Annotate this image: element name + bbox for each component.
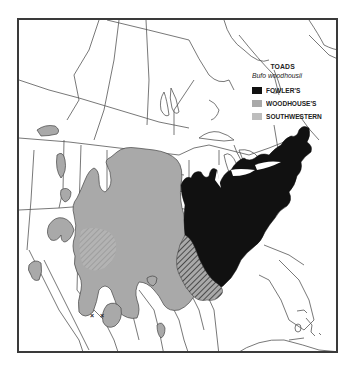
- legend: TOADS Bufo woodhousii FOWLER'S WOODHOUSE…: [252, 62, 336, 124]
- marker-x-2: ×: [100, 312, 104, 319]
- legend-label: WOODHOUSE'S: [266, 99, 316, 108]
- legend-item-woodhouses: WOODHOUSE'S: [252, 98, 336, 109]
- marker-x-1: ×: [90, 312, 94, 319]
- woodhouses-swatch: [252, 100, 262, 107]
- legend-label: FOWLER'S: [266, 86, 300, 95]
- woodhouses-range: [28, 126, 197, 339]
- legend-subtitle: Bufo woodhousii: [252, 71, 323, 80]
- fowlers-swatch: [252, 87, 262, 94]
- legend-item-southwestern: SOUTHWESTERN: [252, 111, 336, 122]
- legend-title: TOADS: [258, 62, 307, 71]
- southwestern-swatch: [252, 113, 262, 120]
- legend-label: SOUTHWESTERN: [266, 112, 322, 121]
- legend-item-fowlers: FOWLER'S: [252, 85, 336, 96]
